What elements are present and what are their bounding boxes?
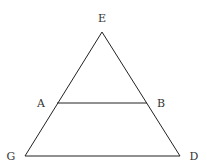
label-B: B — [157, 97, 165, 110]
label-A: A — [36, 97, 46, 110]
segment-ED — [102, 32, 180, 156]
label-G: G — [7, 150, 16, 163]
label-E: E — [98, 12, 106, 25]
label-D: D — [190, 150, 199, 163]
triangle-diagram: E A B G D — [0, 0, 207, 166]
segment-EG — [25, 32, 102, 156]
